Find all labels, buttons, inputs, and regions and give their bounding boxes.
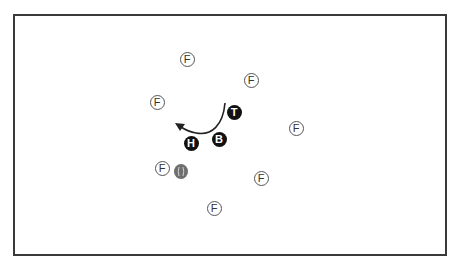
fielder-label: F bbox=[248, 75, 255, 86]
fielder-label: F bbox=[258, 173, 265, 184]
fielder-marker: F bbox=[155, 161, 170, 176]
arrow-path bbox=[181, 103, 225, 133]
player-label: T bbox=[231, 107, 238, 118]
fielder-marker: F bbox=[254, 171, 269, 186]
player-hitter: H bbox=[184, 136, 199, 151]
fielder-label: F bbox=[211, 203, 218, 214]
player-label: H bbox=[187, 138, 195, 149]
player-tosser: T bbox=[227, 105, 242, 120]
fielder-label: F bbox=[154, 97, 161, 108]
fielder-marker: F bbox=[244, 73, 259, 88]
fielder-marker: F bbox=[150, 95, 165, 110]
fielder-marker: F bbox=[289, 121, 304, 136]
fielder-label: F bbox=[184, 54, 191, 65]
player-label: B bbox=[215, 134, 223, 145]
movement-arrow bbox=[0, 0, 456, 268]
player-batter: B bbox=[212, 132, 227, 147]
ball-icon bbox=[174, 164, 188, 179]
fielder-marker: F bbox=[180, 52, 195, 67]
fielder-marker: F bbox=[207, 201, 222, 216]
ball-seams-icon bbox=[174, 164, 188, 179]
fielder-label: F bbox=[293, 123, 300, 134]
fielder-label: F bbox=[159, 163, 166, 174]
arrowhead-icon bbox=[175, 123, 185, 131]
